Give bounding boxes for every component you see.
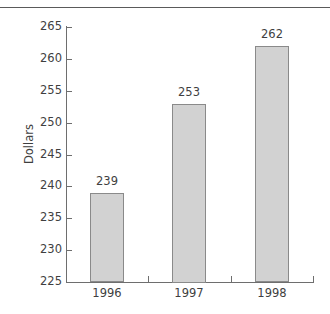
x-axis-tick-label: 1996: [72, 288, 142, 300]
y-axis-tick: [67, 282, 72, 283]
x-axis-tick-label: 1997: [154, 288, 224, 300]
y-axis-tick: [67, 59, 72, 60]
bar-value-label: 253: [154, 87, 224, 99]
bar: [90, 193, 124, 282]
bar: [172, 104, 206, 283]
bar-value-label: 262: [237, 29, 307, 41]
bar: [255, 46, 289, 282]
y-axis-tick-label: 240: [22, 180, 62, 192]
y-axis-tick-label: 265: [22, 21, 62, 33]
y-axis-tick: [67, 250, 72, 251]
y-axis-tick: [67, 27, 72, 28]
y-axis-tick: [67, 91, 72, 92]
y-axis-tick: [67, 123, 72, 124]
bar-value-label: 239: [72, 176, 142, 188]
y-axis-tick: [67, 218, 72, 219]
y-axis-tick-label: 255: [22, 85, 62, 97]
y-axis-tick-label: 245: [22, 149, 62, 161]
y-axis-tick-label: 235: [22, 212, 62, 224]
y-axis-tick-label: 250: [22, 117, 62, 129]
bar-chart-figure: Dollars 225230235240245250255260265 2392…: [0, 0, 330, 314]
y-axis-tick-label: 225: [22, 276, 62, 288]
x-axis-tick: [148, 276, 149, 282]
x-axis-tick: [231, 276, 232, 282]
y-axis-tick-label-group: 225230235240245250255260265: [18, 0, 62, 314]
x-axis-tick-label: 1998: [237, 288, 307, 300]
y-axis-tick-label: 230: [22, 244, 62, 256]
y-axis-tick-label: 260: [22, 53, 62, 65]
y-axis-tick: [67, 155, 72, 156]
x-axis-end-tick: [313, 276, 314, 282]
